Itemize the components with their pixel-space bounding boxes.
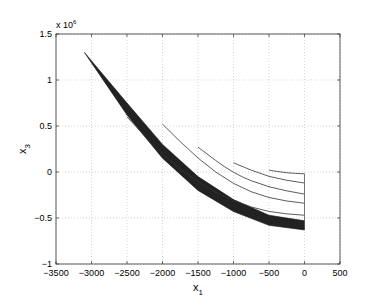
y-tick-label: −1 [42, 259, 52, 269]
y-tick-label: 1.5 [39, 29, 52, 39]
y-tick-label: 0 [47, 167, 52, 177]
x-tick-label: −1500 [185, 268, 210, 278]
x-tick-label: 500 [332, 268, 347, 278]
x-tick-label: −2500 [114, 268, 139, 278]
x-tick-label: −3000 [79, 268, 104, 278]
y-tick-label: −0.5 [34, 213, 52, 223]
chart: −3500−3000−2500−2000−1500−1000−5000500−1… [0, 0, 365, 307]
x-tick-label: 0 [302, 268, 307, 278]
x-axis-label: x1 [193, 281, 204, 297]
x-tick-label: −3500 [43, 268, 68, 278]
x-tick-label: −500 [259, 268, 279, 278]
x-tick-label: −1000 [221, 268, 246, 278]
y-tick-label: 1 [47, 75, 52, 85]
y-tick-label: 0.5 [39, 121, 52, 131]
x-tick-label: −2000 [150, 268, 175, 278]
y-axis-label: x3 [16, 143, 32, 154]
y-multiplier-label: x 106 [56, 19, 77, 30]
